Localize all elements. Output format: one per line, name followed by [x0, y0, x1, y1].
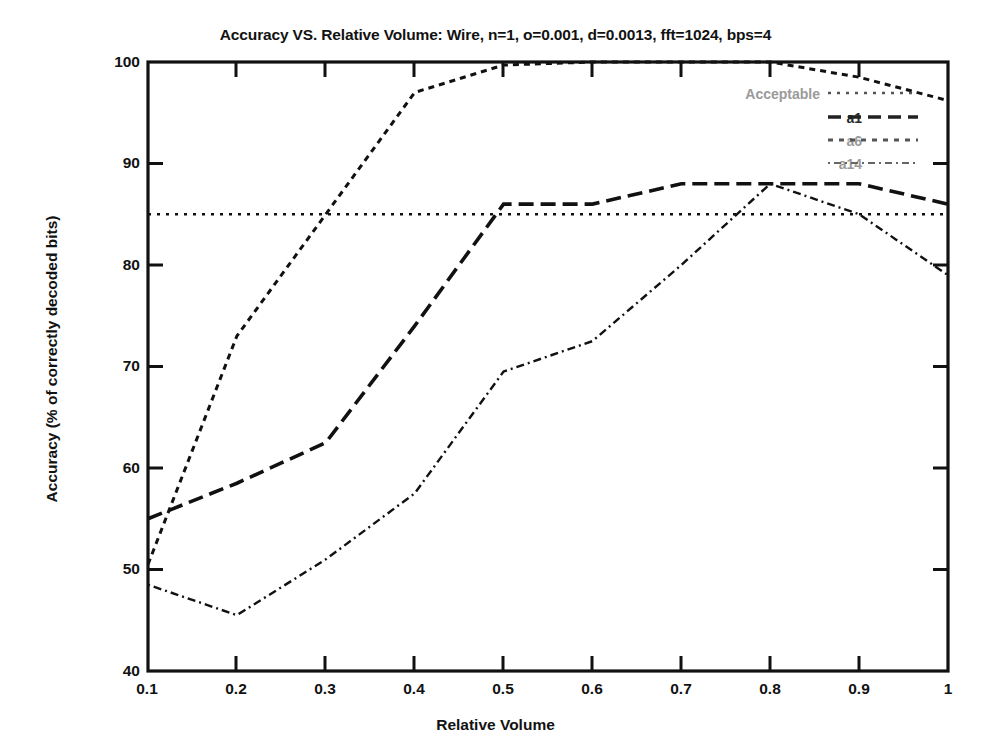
plot-canvas	[0, 0, 991, 755]
axis-frame	[148, 62, 948, 671]
x-axis-ticks	[236, 62, 859, 671]
y-axis-ticks	[148, 164, 948, 570]
series-a1	[148, 184, 948, 519]
series-a14	[148, 184, 948, 615]
chart-figure: Accuracy VS. Relative Volume: Wire, n=1,…	[0, 0, 991, 755]
series-a6	[148, 62, 948, 564]
legend-swatches	[828, 93, 918, 163]
